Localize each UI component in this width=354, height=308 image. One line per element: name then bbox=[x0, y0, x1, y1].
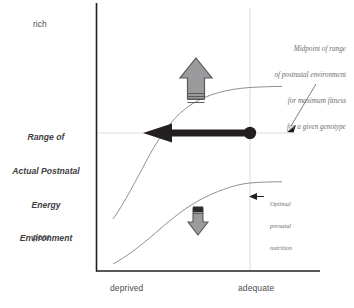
range-label-line-1: Range of bbox=[0, 132, 92, 143]
midpoint-annotation-line-3: for maximum fitness bbox=[248, 97, 346, 106]
midpoint-annotation-line-4: for a given genotype bbox=[248, 123, 346, 132]
optimal-annotation-line-1: Optimal bbox=[270, 200, 312, 207]
y-axis-range-label: Range of Actual Postnatal Energy Environ… bbox=[0, 110, 92, 267]
optimal-nutrition-annotation: Optimal prenatal nutrition bbox=[270, 185, 312, 266]
range-label-line-2: Actual Postnatal bbox=[0, 166, 92, 177]
midpoint-annotation: Midpoint of range of postnatal environme… bbox=[248, 28, 346, 148]
range-label-line-4: Environment bbox=[0, 233, 92, 244]
down-shift-arrow bbox=[188, 207, 208, 236]
optimal-leader-arrow bbox=[249, 193, 264, 200]
optimal-annotation-line-3: nutrition bbox=[270, 244, 312, 251]
up-shift-arrow bbox=[180, 58, 212, 103]
range-label-line-3: Energy bbox=[0, 200, 92, 211]
optimal-annotation-line-2: prenatal bbox=[270, 222, 312, 229]
midpoint-annotation-line-1: Midpoint of range bbox=[248, 45, 346, 54]
y-axis-top-label: rich bbox=[33, 19, 47, 29]
x-axis-left-label: deprived bbox=[110, 283, 143, 293]
midpoint-annotation-line-2: of postnatal environment bbox=[248, 71, 346, 80]
diagram-canvas: rich poor Range of Actual Postnatal Ener… bbox=[0, 0, 354, 308]
x-axis-right-label: adequate bbox=[238, 283, 274, 293]
